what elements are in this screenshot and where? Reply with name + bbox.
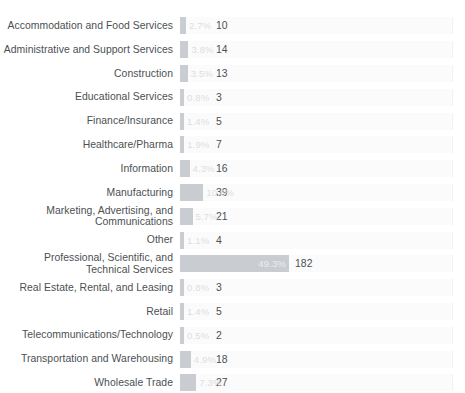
value-bar[interactable]: 10.6% [180,184,203,201]
percent-label: 4.3% [190,163,215,174]
chart-rows: Accommodation and Food Services2.7%10Adm… [0,14,465,393]
percent-label: 4.9% [191,354,216,365]
category-label: Real Estate, Rental, and Leasing [0,282,180,294]
chart-row: Telecommunications/Technology0.5%2 [0,323,465,347]
value-bar[interactable]: 1.9% [180,136,184,153]
category-label: Construction [0,68,180,80]
category-label: Information [0,163,180,175]
value-bar[interactable]: 2.7% [180,17,186,34]
chart-row: Finance/Insurance1.4%5 [0,109,465,133]
value-bar[interactable]: 4.9% [180,351,191,368]
bar-track: 1.9%7 [180,136,453,153]
bar-track: 0.5%2 [180,327,453,344]
percent-label: 7.3% [196,377,221,388]
category-label: Administrative and Support Services [0,44,180,56]
percent-label: 3.5% [188,68,213,79]
bar-track: 1.4%5 [180,113,453,130]
bar-track: 0.8%3 [180,89,453,106]
chart-row: Wholesale Trade7.3%27 [0,371,465,393]
value-bar[interactable]: 1.4% [180,303,184,320]
chart-row: Healthcare/Pharma1.9%7 [0,133,465,157]
value-bar[interactable]: 0.5% [180,327,184,344]
percent-label: 0.8% [184,92,209,103]
percent-label: 1.1% [184,235,209,246]
value-bar[interactable]: 0.8% [180,279,184,296]
chart-row: Accommodation and Food Services2.7%10 [0,14,465,38]
value-bar[interactable]: 3.5% [180,65,188,82]
count-label: 182 [289,258,313,269]
chart-row: Administrative and Support Services3.8%1… [0,38,465,62]
category-label: Telecommunications/Technology [0,329,180,341]
bar-track: 4.9%18 [180,351,453,368]
value-bar[interactable]: 0.8% [180,89,184,106]
percent-label: 0.8% [184,282,209,293]
chart-row: Marketing, Advertising, and Communicatio… [0,204,465,228]
chart-row: Professional, Scientific, and Technical … [0,252,465,276]
percent-label: 10.6% [203,187,234,198]
bar-track: 5.7%21 [180,208,453,225]
category-label: Wholesale Trade [0,377,180,389]
value-bar[interactable]: 3.8% [180,41,188,58]
bar-track: 1.1%4 [180,232,453,249]
category-label: Educational Services [0,91,180,103]
bar-track: 7.3%27 [180,374,453,391]
percent-label: 1.4% [184,306,209,317]
bar-track: 0.8%3 [180,279,453,296]
bar-track: 3.8%14 [180,41,453,58]
category-label: Other [0,234,180,246]
chart-row: Transportation and Warehousing4.9%18 [0,347,465,371]
chart-row: Construction3.5%13 [0,62,465,86]
industry-bar-chart: Accommodation and Food Services2.7%10Adm… [0,0,465,393]
value-bar[interactable]: 5.7% [180,208,193,225]
category-label: Accommodation and Food Services [0,20,180,32]
value-bar[interactable]: 49.3% [180,255,289,272]
chart-row: Other1.1%4 [0,228,465,252]
chart-row: Manufacturing10.6%39 [0,181,465,205]
value-bar[interactable]: 1.4% [180,113,184,130]
category-label: Healthcare/Pharma [0,139,180,151]
bar-track: 1.4%5 [180,303,453,320]
value-bar[interactable]: 1.1% [180,232,184,249]
percent-label: 5.7% [193,211,218,222]
category-label: Marketing, Advertising, and Communicatio… [0,205,180,228]
value-bar[interactable]: 4.3% [180,160,190,177]
chart-row: Educational Services0.8%3 [0,85,465,109]
category-label: Professional, Scientific, and Technical … [0,252,180,275]
percent-label: 1.9% [184,139,209,150]
category-label: Finance/Insurance [0,115,180,127]
percent-label: 49.3% [258,258,289,269]
chart-row: Real Estate, Rental, and Leasing0.8%3 [0,276,465,300]
bar-track: 3.5%13 [180,65,453,82]
percent-label: 3.8% [188,44,213,55]
category-label: Manufacturing [0,187,180,199]
category-label: Transportation and Warehousing [0,353,180,365]
bar-track: 2.7%10 [180,17,453,34]
percent-label: 1.4% [184,116,209,127]
bar-track: 4.3%16 [180,160,453,177]
category-label: Retail [0,306,180,318]
value-bar[interactable]: 7.3% [180,374,196,391]
percent-label: 2.7% [186,20,211,31]
chart-row: Information4.3%16 [0,157,465,181]
bar-track: 49.3%182 [180,255,453,272]
percent-label: 0.5% [184,330,209,341]
chart-row: Retail1.4%5 [0,300,465,324]
bar-track: 10.6%39 [180,184,453,201]
